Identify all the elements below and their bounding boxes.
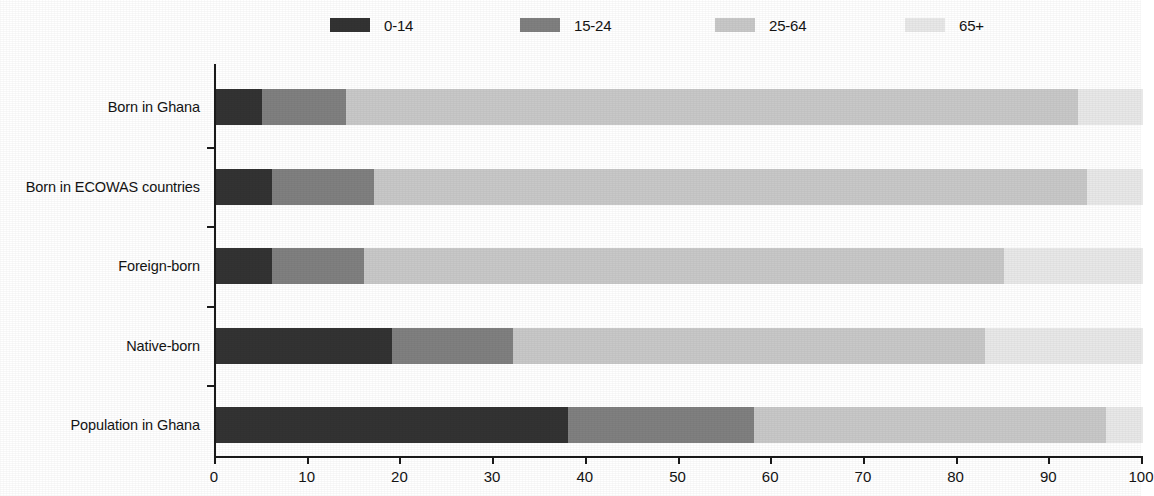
y-axis-tick <box>207 385 214 387</box>
bar-segment-15-24[interactable] <box>272 169 374 205</box>
x-axis-tick <box>863 456 865 464</box>
plot-area: 0102030405060708090100Born in GhanaBorn … <box>214 64 1141 456</box>
bar-3[interactable] <box>216 248 1143 284</box>
x-axis-tick-label: 70 <box>855 468 872 485</box>
x-axis-tick <box>1048 456 1050 464</box>
x-axis-tick-label: 80 <box>947 468 964 485</box>
x-axis-tick-label: 50 <box>669 468 686 485</box>
legend-label: 65+ <box>959 17 984 34</box>
bar-segment-65plus[interactable] <box>1106 407 1143 443</box>
bar-4[interactable] <box>216 328 1143 364</box>
y-axis-category-label: Foreign-born <box>0 258 200 274</box>
x-axis-tick <box>585 456 587 464</box>
y-axis-category-label: Born in Ghana <box>0 99 200 115</box>
legend-item-0-14[interactable]: 0-14 <box>330 10 413 40</box>
x-axis-tick <box>1141 456 1143 464</box>
y-axis-tick <box>207 147 214 149</box>
bar-segment-15-24[interactable] <box>262 89 345 125</box>
legend-swatch-0-14 <box>330 18 370 32</box>
x-axis-tick <box>678 456 680 464</box>
bar-segment-25-64[interactable] <box>513 328 986 364</box>
y-axis-tick <box>207 226 214 228</box>
bar-segment-65plus[interactable] <box>1004 248 1143 284</box>
x-axis-tick-label: 10 <box>298 468 315 485</box>
x-axis-tick <box>307 456 309 464</box>
bar-segment-15-24[interactable] <box>272 248 365 284</box>
x-axis-tick <box>492 456 494 464</box>
legend-item-15-24[interactable]: 15-24 <box>520 10 611 40</box>
x-axis-tick-label: 20 <box>391 468 408 485</box>
y-axis-category-label: Born in ECOWAS countries <box>0 179 200 195</box>
bar-segment-0-14[interactable] <box>216 328 392 364</box>
bar-segment-25-64[interactable] <box>364 248 1004 284</box>
bar-segment-25-64[interactable] <box>754 407 1106 443</box>
x-axis-tick <box>214 456 216 464</box>
legend-item-65plus[interactable]: 65+ <box>905 10 984 40</box>
chart-legend: 0-1415-2425-6465+ <box>0 10 1141 44</box>
legend-swatch-15-24 <box>520 18 560 32</box>
legend-swatch-65plus <box>905 18 945 32</box>
bar-segment-0-14[interactable] <box>216 89 262 125</box>
legend-swatch-25-64 <box>715 18 755 32</box>
legend-label: 15-24 <box>574 17 611 34</box>
bar-segment-25-64[interactable] <box>346 89 1078 125</box>
bar-segment-0-14[interactable] <box>216 169 272 205</box>
x-axis-tick-label: 0 <box>210 468 218 485</box>
bar-segment-0-14[interactable] <box>216 407 568 443</box>
x-axis-tick-label: 100 <box>1128 468 1153 485</box>
legend-label: 25-64 <box>769 17 806 34</box>
x-axis-tick-label: 60 <box>762 468 779 485</box>
bar-5[interactable] <box>216 407 1143 443</box>
x-axis-tick <box>399 456 401 464</box>
y-axis-category-label: Population in Ghana <box>0 417 200 433</box>
legend-item-25-64[interactable]: 25-64 <box>715 10 806 40</box>
legend-label: 0-14 <box>384 17 413 34</box>
bar-segment-65plus[interactable] <box>1078 89 1143 125</box>
bar-2[interactable] <box>216 169 1143 205</box>
x-axis-tick-label: 30 <box>484 468 501 485</box>
y-axis-category-label: Native-born <box>0 338 200 354</box>
x-axis-tick <box>770 456 772 464</box>
x-axis-tick <box>956 456 958 464</box>
bar-segment-65plus[interactable] <box>1087 169 1143 205</box>
x-axis-tick-label: 90 <box>1040 468 1057 485</box>
bar-segment-25-64[interactable] <box>374 169 1088 205</box>
x-axis-tick-label: 40 <box>576 468 593 485</box>
y-axis-tick <box>207 306 214 308</box>
bar-segment-65plus[interactable] <box>985 328 1143 364</box>
bar-1[interactable] <box>216 89 1143 125</box>
bar-segment-0-14[interactable] <box>216 248 272 284</box>
bar-segment-15-24[interactable] <box>568 407 753 443</box>
bar-segment-15-24[interactable] <box>392 328 513 364</box>
